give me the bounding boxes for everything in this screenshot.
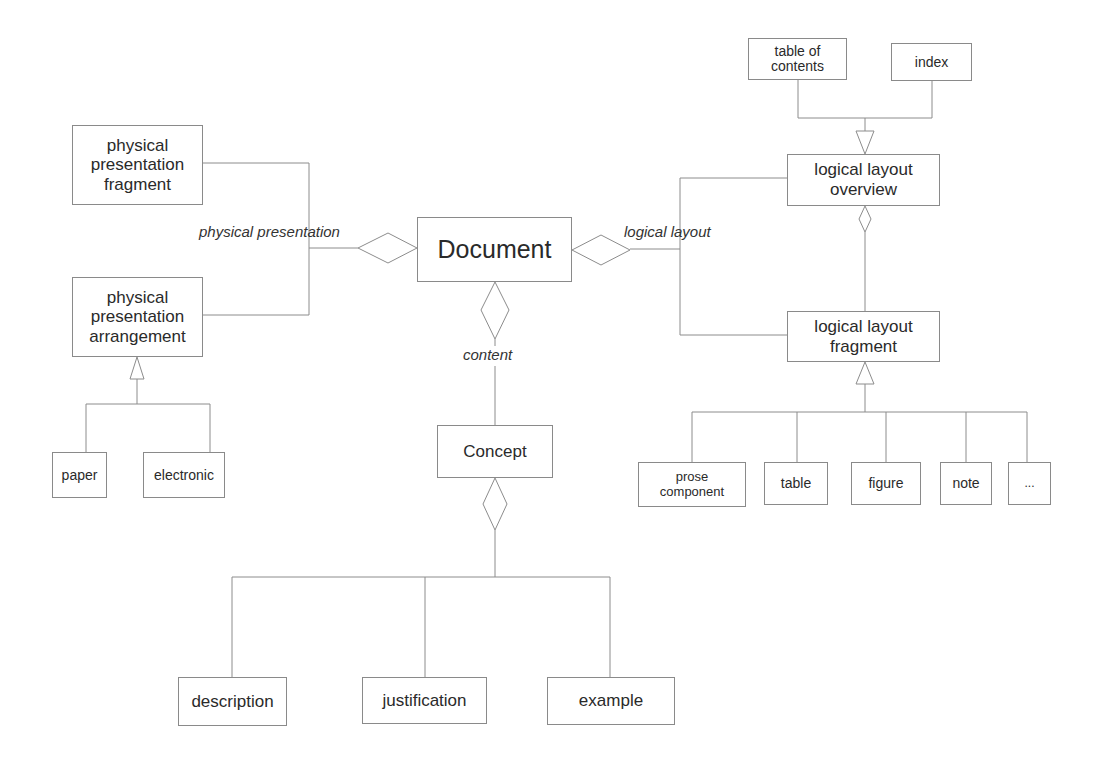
box-label-line: overview [814,180,912,200]
content-label: content [463,346,512,363]
generalization-triangle-physical [130,357,144,379]
logical-layout-fragment-box: logical layout fragment [787,311,940,362]
box-label-line: fragment [814,337,912,357]
box-label: example [579,691,643,711]
figure-box: figure [851,462,921,505]
box-label-line: table of [771,44,824,59]
logical-layout-label: logical layout [624,223,711,240]
box-label-line: presentation [89,307,185,327]
box-label: index [915,54,948,70]
generalization-triangle-overview [856,131,874,154]
document-box: Document [417,217,572,282]
aggregation-diamond-concept [483,478,507,530]
description-box: description [178,677,287,726]
box-label-line: logical layout [814,160,912,180]
box-label-line: component [660,485,724,499]
index-box: index [891,43,972,81]
box-label: note [952,475,979,491]
physical-presentation-fragment-box: physical presentation fragment [72,125,203,205]
box-label-line: logical layout [814,317,912,337]
box-label-line: physical [91,136,185,156]
more-subtypes-box: ... [1008,462,1051,505]
aggregation-diamond-physical [358,233,417,263]
box-label-line: physical [89,288,185,308]
box-label: paper [62,467,98,483]
generalization-triangle-fragment [856,362,874,384]
aggregation-diamond-overview [859,206,871,232]
prose-component-box: prose component [638,462,746,507]
box-label: ... [1024,477,1034,491]
table-box: table [764,462,828,505]
box-label: description [191,692,273,712]
paper-box: paper [52,452,107,498]
box-label-line: presentation [91,155,185,175]
box-label: electronic [154,467,214,483]
electronic-box: electronic [143,452,225,498]
box-label: figure [868,475,903,491]
box-label-line: contents [771,59,824,74]
box-label-line: prose [660,470,724,484]
box-label-line: fragment [91,175,185,195]
physical-presentation-arrangement-box: physical presentation arrangement [72,277,203,357]
connector-lines [0,0,1099,770]
justification-box: justification [362,677,487,724]
concept-label: Concept [463,442,526,462]
document-label: Document [438,235,552,264]
concept-box: Concept [437,425,553,478]
physical-presentation-label: physical presentation [199,223,340,240]
box-label: justification [382,691,466,711]
aggregation-diamond-content [481,282,509,339]
note-box: note [940,462,992,505]
logical-layout-overview-box: logical layout overview [787,154,940,206]
example-box: example [547,677,675,725]
table-of-contents-box: table of contents [748,38,847,80]
box-label: table [781,475,811,491]
box-label-line: arrangement [89,327,185,347]
logical-connector [680,178,787,335]
aggregation-diamond-logical [572,235,630,265]
